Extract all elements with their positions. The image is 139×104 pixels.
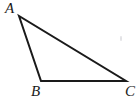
triangle-outline [19,16,126,81]
vertex-label-b: B [31,84,40,99]
triangle-figure: A B C [0,0,139,104]
vertex-label-c: C [125,84,135,99]
triangle-diagram [0,0,139,104]
vertex-label-a: A [5,1,14,16]
scan-artifact-speck [120,36,122,41]
